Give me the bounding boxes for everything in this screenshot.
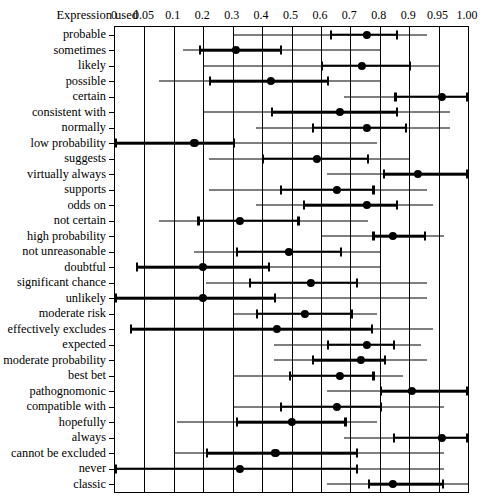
- row-label-expected: expected: [0, 337, 115, 353]
- interquartile-bar: [249, 281, 356, 284]
- interquartile-bar: [368, 483, 442, 486]
- row-tick-icon: [109, 159, 114, 160]
- row-tick-icon: [109, 391, 114, 392]
- data-row: doubtful: [115, 260, 468, 276]
- row-tick-icon: [109, 298, 114, 299]
- interquartile-bar: [197, 219, 297, 222]
- cap-q1: [115, 294, 117, 303]
- row-tick-icon: [109, 407, 114, 408]
- cap-q3: [344, 418, 346, 427]
- cap-q3: [384, 356, 386, 365]
- data-row: likely: [115, 58, 468, 74]
- x-tick-label-0p7: 0.7: [342, 8, 357, 22]
- row-tick-icon: [109, 422, 114, 423]
- cap-q1: [368, 480, 370, 489]
- x-tick-label-0p4: 0.4: [254, 8, 269, 22]
- data-row: suggests: [115, 151, 468, 167]
- data-row: pathognomonic: [115, 384, 468, 400]
- cap-q3: [396, 201, 398, 210]
- cap-q1: [206, 449, 208, 458]
- cap-q1: [115, 464, 117, 473]
- median-dot: [437, 434, 445, 442]
- data-row: significant chance: [115, 275, 468, 291]
- cap-q3: [233, 139, 235, 148]
- data-row: virtually always: [115, 167, 468, 183]
- x-tick-label-1p00: 1.00: [457, 8, 478, 22]
- cap-q1: [197, 216, 199, 225]
- cap-q3: [393, 340, 395, 349]
- median-dot: [362, 31, 370, 39]
- row-label-compatible-with: compatible with: [0, 399, 115, 415]
- data-row: unlikely: [115, 291, 468, 307]
- row-label-normally: normally: [0, 120, 115, 136]
- x-tick-label-0p05: 0.05: [133, 8, 154, 22]
- data-row: moderate probability: [115, 353, 468, 369]
- row-label-consistent-with: consistent with: [0, 105, 115, 121]
- cap-q1: [372, 232, 374, 241]
- median-dot: [312, 155, 320, 163]
- median-dot: [362, 341, 370, 349]
- row-label-odds-on: odds on: [0, 198, 115, 214]
- cap-q1: [327, 340, 329, 349]
- x-tick-label-0p8: 0.8: [371, 8, 386, 22]
- row-tick-icon: [109, 205, 114, 206]
- data-row: odds on: [115, 198, 468, 214]
- row-tick-icon: [109, 438, 114, 439]
- cap-q1: [236, 418, 238, 427]
- median-dot: [357, 356, 365, 364]
- x-tick-label-0p6: 0.6: [312, 8, 327, 22]
- median-dot: [199, 263, 207, 271]
- row-tick-icon: [109, 376, 114, 377]
- row-label-unlikely: unlikely: [0, 291, 115, 307]
- row-label-moderate-probability: moderate probability: [0, 353, 115, 369]
- data-row: never: [115, 461, 468, 477]
- x-tick-label-0p2: 0.2: [195, 8, 210, 22]
- row-tick-icon: [109, 81, 114, 82]
- interquartile-bar: [372, 235, 423, 238]
- cap-q3: [409, 61, 411, 70]
- row-label-high-probability: high probability: [0, 229, 115, 245]
- cap-q3: [356, 449, 358, 458]
- row-label-sometimes: sometimes: [0, 43, 115, 59]
- median-dot: [190, 139, 198, 147]
- row-tick-icon: [109, 453, 114, 454]
- row-label-pathognomonic: pathognomonic: [0, 384, 115, 400]
- interquartile-bar: [115, 297, 274, 300]
- median-dot: [333, 403, 341, 411]
- data-row: effectively excludes: [115, 322, 468, 338]
- expression-probability-chart: Expression used 00.050.10.20.30.40.50.60…: [0, 0, 495, 501]
- cap-q3: [424, 232, 426, 241]
- interquartile-bar: [327, 343, 393, 346]
- median-dot: [287, 418, 295, 426]
- cap-q1: [199, 46, 201, 55]
- row-tick-icon: [109, 112, 114, 113]
- row-label-effectively-excludes: effectively excludes: [0, 322, 115, 338]
- row-tick-icon: [109, 252, 114, 253]
- cap-q3: [466, 170, 468, 179]
- interquartile-bar: [289, 374, 373, 377]
- data-row: sometimes: [115, 43, 468, 59]
- interquartile-bar: [130, 328, 371, 331]
- median-dot: [389, 232, 397, 240]
- row-label-certain: certain: [0, 89, 115, 105]
- cap-q1: [312, 356, 314, 365]
- cap-q3: [372, 371, 374, 380]
- cap-q3: [466, 92, 468, 101]
- cap-q1: [249, 278, 251, 287]
- row-tick-icon: [109, 50, 114, 51]
- median-dot: [236, 465, 244, 473]
- cap-q1: [280, 185, 282, 194]
- median-dot: [358, 62, 366, 70]
- row-tick-icon: [109, 174, 114, 175]
- cap-q1: [262, 154, 264, 163]
- data-row: expected: [115, 337, 468, 353]
- row-tick-icon: [109, 329, 114, 330]
- x-tick-label-0p5: 0.5: [283, 8, 298, 22]
- cap-q1: [280, 402, 282, 411]
- data-row: possible: [115, 74, 468, 90]
- data-row: normally: [115, 120, 468, 136]
- cap-q1: [236, 247, 238, 256]
- median-dot: [336, 108, 344, 116]
- row-label-hopefully: hopefully: [0, 415, 115, 431]
- median-dot: [271, 449, 279, 457]
